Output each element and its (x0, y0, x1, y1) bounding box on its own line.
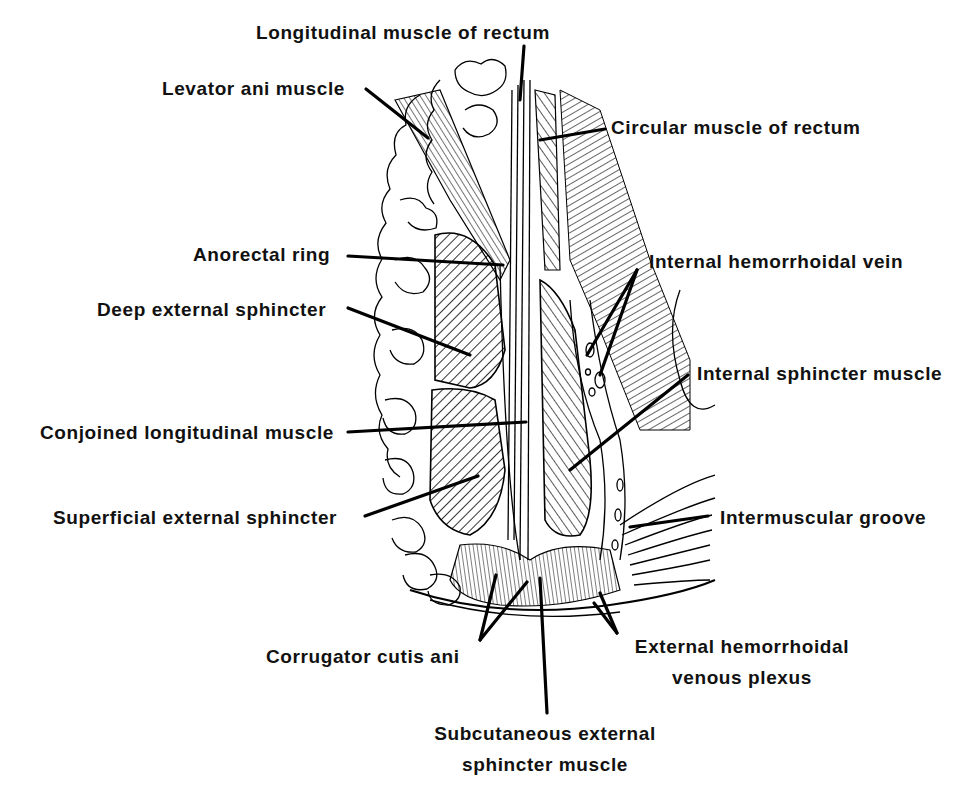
label-subcutaneous-external-sphincter-muscle: Subcutaneous external sphincter muscle (405, 717, 685, 780)
internal-sphincter-region (540, 280, 591, 536)
label-deep-external-sphincter: Deep external sphincter (97, 298, 326, 321)
label-line-1: Subcutaneous external (405, 717, 685, 750)
label-intermuscular-groove: Intermuscular groove (720, 506, 926, 529)
label-longitudinal-muscle-of-rectum: Longitudinal muscle of rectum (256, 21, 550, 44)
circular-muscle-region (535, 90, 560, 270)
label-external-hemorrhoidal-venous-plexus: External hemorrhoidal venous plexus (622, 630, 862, 692)
perianal-skin (620, 475, 715, 585)
label-line-2: sphincter muscle (405, 750, 685, 780)
longitudinal-muscle-bands (500, 80, 530, 560)
subcutaneous-sphincter-region (450, 544, 620, 606)
label-anorectal-ring: Anorectal ring (193, 243, 330, 266)
label-line-2: venous plexus (622, 664, 862, 692)
label-levator-ani-muscle: Levator ani muscle (162, 77, 345, 100)
label-internal-sphincter-muscle: Internal sphincter muscle (697, 362, 942, 385)
superficial-external-sphincter-region (430, 389, 505, 535)
label-corrugator-cutis-ani: Corrugator cutis ani (266, 645, 460, 668)
label-circular-muscle-of-rectum: Circular muscle of rectum (611, 116, 860, 139)
label-conjoined-longitudinal-muscle: Conjoined longitudinal muscle (40, 421, 334, 444)
label-internal-hemorrhoidal-vein: Internal hemorrhoidal vein (649, 250, 903, 273)
label-superficial-external-sphincter: Superficial external sphincter (53, 506, 337, 529)
label-line-1: External hemorrhoidal (622, 630, 862, 664)
